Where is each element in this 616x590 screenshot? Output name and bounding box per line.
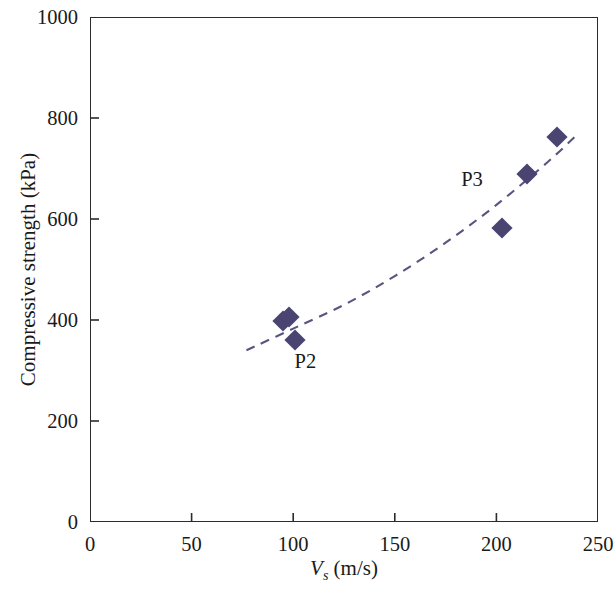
- chart-page: P2P3 02004006008001000 050100150200250 C…: [0, 0, 616, 590]
- x-tick-label: 250: [583, 534, 614, 555]
- y-axis-title: Compressive strength (kPa): [16, 17, 46, 522]
- x-tick-label: 100: [278, 534, 309, 555]
- point-annotation-label: P2: [295, 350, 317, 373]
- x-axis-title: Vs (m/s): [90, 556, 598, 584]
- x-axis-title-unit: (m/s): [328, 556, 378, 580]
- x-tick-label: 200: [481, 534, 512, 555]
- point-annotation-label: P3: [461, 167, 483, 190]
- x-tick-label: 50: [181, 534, 202, 555]
- x-tick-label: 150: [379, 534, 410, 555]
- plot-area-frame: [90, 17, 598, 522]
- x-axis-title-symbol: V: [310, 556, 323, 580]
- x-tick-label: 0: [85, 534, 95, 555]
